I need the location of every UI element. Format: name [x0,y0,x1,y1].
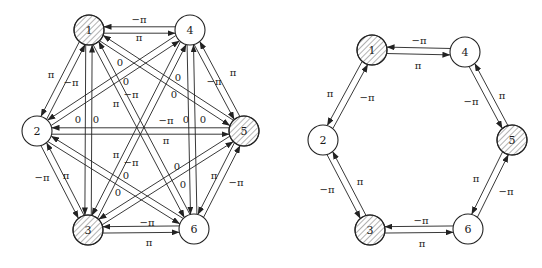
edge-label: π [499,90,506,101]
edge-label: −π [360,92,375,103]
edge-1-to-3 [85,45,86,215]
edge-label: 0 [175,72,181,83]
node-1: 1 [74,15,104,45]
edge-label: π [136,32,143,43]
ring-graph: −πππ−π−ππ−ππ−ππ−ππ 142536 [308,35,527,249]
node-label: 2 [320,134,327,147]
node-3: 3 [355,215,385,245]
edge-label: 0 [123,76,129,87]
edge-label: 0 [115,187,121,198]
node-2: 2 [22,116,52,146]
edge-label: −π [499,186,514,197]
edge-label: 0 [75,114,81,125]
edge-3-to-6 [385,232,453,233]
edge-label: 0 [93,114,99,125]
edge-label: π [327,88,334,99]
node-6: 6 [453,214,483,244]
edge-label: 0 [123,170,129,181]
edge-label: −π [159,115,174,126]
edge-label: −π [140,217,155,228]
edge-label: π [473,173,480,184]
node-3: 3 [73,215,103,245]
edge-label: −π [132,14,147,25]
edge-label: 0 [117,57,123,68]
edge-1-to-4 [387,54,450,55]
node-1: 1 [357,35,387,65]
edge-label: 0 [171,89,177,100]
node-label: 5 [509,134,516,147]
node-label: 6 [191,223,198,236]
node-label: 1 [86,24,93,37]
edge-label: −π [320,184,335,195]
edge-6-to-3 [385,226,453,227]
edge-label: −π [124,157,139,168]
edge-label: π [357,176,364,187]
edge-6-to-4 [194,45,197,214]
edge-label: π [415,60,422,71]
edge-label: 0 [174,161,180,172]
edge-label: π [113,98,120,109]
edge-label: 0 [200,114,206,125]
edge-label: −π [64,77,79,88]
node-2: 2 [308,125,338,155]
node-label: 6 [465,223,472,236]
edge-label: π [419,238,426,249]
phase-graph-figure: −πππ−π−ππ−ππ−ππ−ππ0000−ππ0000−πππ−π0000 … [0,0,542,268]
node-5: 5 [229,116,259,146]
full-graph: −πππ−π−ππ−ππ−ππ−ππ0000−ππ0000−πππ−π0000 … [22,14,259,248]
edge-4-to-6 [187,45,190,214]
node-label: 3 [85,224,92,237]
edge-label: −π [229,177,244,188]
edge-label: π [211,170,218,181]
node-label: 2 [34,125,41,138]
edge-label: −π [464,96,479,107]
edge-label: π [163,135,170,146]
node-label: 3 [367,224,374,237]
edge-label: 0 [180,179,186,190]
edge-label: −π [207,76,222,87]
node-4: 4 [450,37,480,67]
edge-1-to-6 [93,45,184,217]
node-label: 1 [369,44,376,57]
edge-label: 0 [183,114,189,125]
node-4: 4 [175,15,205,45]
edge-label: π [230,67,237,78]
node-label: 4 [462,46,469,59]
edge-label: −π [35,172,50,183]
edge-label: −π [124,89,139,100]
edge-label: π [63,170,70,181]
edge-label: −π [412,35,427,46]
edges-layer [41,27,240,233]
node-label: 4 [187,24,194,37]
edge-3-to-6 [103,232,179,233]
edge-label: π [113,149,120,160]
edge-labels-layer: −πππ−π−ππ−ππ−ππ−ππ [320,35,514,249]
nodes-layer: 142536 [22,15,259,245]
node-5: 5 [497,125,527,155]
edge-3-to-1 [91,45,92,215]
edge-label: −π [414,215,429,226]
edge-label: π [48,69,55,80]
edge-labels-layer: −πππ−π−ππ−ππ−ππ−ππ0000−ππ0000−πππ−π0000 [35,14,244,248]
node-label: 5 [241,125,248,138]
edges-layer [327,47,508,233]
node-6: 6 [179,214,209,244]
edge-4-to-1 [387,47,450,48]
edge-label: π [146,237,153,248]
